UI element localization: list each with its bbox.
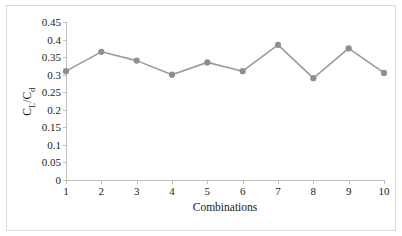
x-axis-tick-label: 10 (379, 185, 390, 197)
y-axis-tick-label: 0.45 (0, 17, 61, 28)
x-axis-tick-label: 9 (346, 185, 352, 197)
y-axis-title-text: CL/Cd (21, 88, 36, 116)
x-axis-tick-label: 6 (240, 185, 246, 197)
y-axis-tick-mark (63, 92, 66, 93)
y-axis-title-tail-sub: d (27, 88, 37, 92)
y-axis-tick-mark (63, 75, 66, 76)
x-axis-tick-mark (349, 181, 350, 184)
y-axis-tick-label: 0.1 (0, 140, 61, 151)
y-axis-tick-mark (63, 57, 66, 58)
y-axis-tick-mark (63, 40, 66, 41)
x-axis-tick-labels: 12345678910 (66, 185, 384, 201)
y-axis-tick-label: 0.35 (0, 52, 61, 63)
x-axis-tick-mark (278, 181, 279, 184)
x-axis-tick-mark (384, 181, 385, 184)
y-axis-title-lead-sub: L (27, 103, 37, 108)
data-point-marker (240, 68, 246, 74)
x-axis-tick-mark (172, 181, 173, 184)
x-axis-tick-label: 4 (169, 185, 175, 197)
x-axis-tick-label: 2 (99, 185, 105, 197)
x-axis-tick-mark (137, 181, 138, 184)
y-axis-tick-mark (63, 162, 66, 163)
data-point-marker (275, 42, 281, 48)
y-axis-tick-label: 0.4 (0, 35, 61, 46)
data-point-marker (98, 49, 104, 55)
plot-area (66, 22, 384, 180)
data-point-marker (134, 58, 140, 64)
y-axis-tick-mark (63, 110, 66, 111)
y-axis-tick-label: 0 (0, 175, 61, 186)
x-axis-tick-mark (313, 181, 314, 184)
x-axis-tick-label: 3 (134, 185, 140, 197)
x-axis-tick-mark (243, 181, 244, 184)
data-point-marker (310, 75, 316, 81)
series-line-chart (66, 22, 384, 180)
y-axis-title-mid: /C (21, 92, 33, 103)
y-axis-tick-mark (63, 127, 66, 128)
data-point-marker (169, 72, 175, 78)
y-axis-tick-label: 0.05 (0, 157, 61, 168)
x-axis-tick-label: 1 (63, 185, 69, 197)
series-markers-group (63, 42, 387, 82)
data-point-marker (381, 70, 387, 76)
series-line-cl-cd (66, 45, 384, 78)
x-axis-tick-label: 8 (311, 185, 317, 197)
y-axis-title: CL/Cd (22, 78, 36, 126)
x-axis-tick-label: 5 (205, 185, 211, 197)
x-axis-tick-mark (207, 181, 208, 184)
x-axis-title: Combinations (66, 201, 384, 213)
x-axis-tick-mark (66, 181, 67, 184)
data-point-marker (204, 59, 210, 65)
y-axis-tick-mark (63, 22, 66, 23)
chart-figure: 00.050.10.150.20.250.30.350.40.45 123456… (0, 0, 402, 236)
x-axis-line (66, 180, 385, 181)
y-axis-tick-mark (63, 145, 66, 146)
data-point-marker (63, 68, 69, 74)
y-axis-title-lead: C (21, 108, 33, 116)
x-axis-tick-label: 7 (275, 185, 281, 197)
x-axis-tick-mark (101, 181, 102, 184)
data-point-marker (346, 45, 352, 51)
